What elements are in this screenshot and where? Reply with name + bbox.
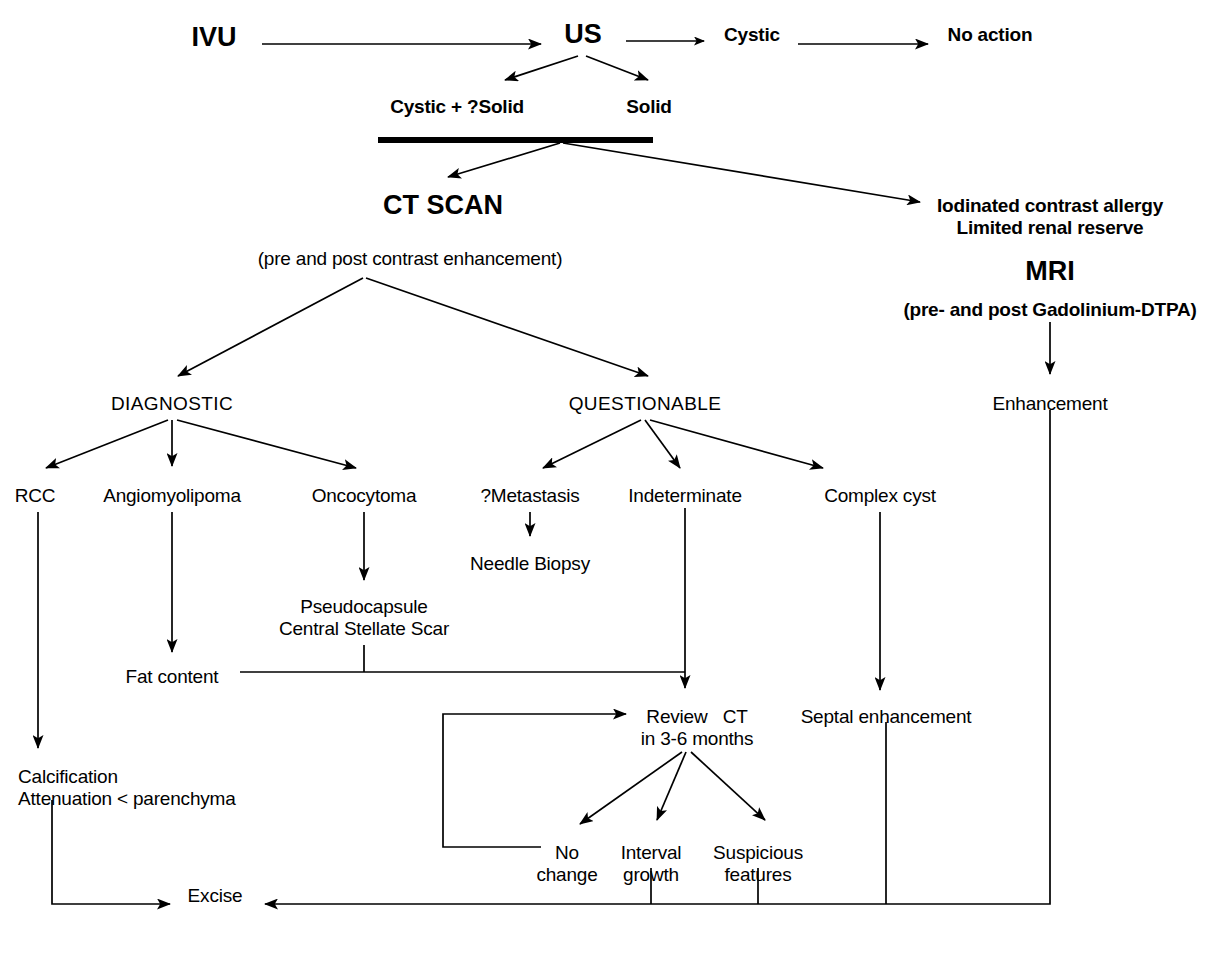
edge-diagnostic-to-rcc bbox=[46, 420, 168, 468]
node-rcc: RCC bbox=[15, 485, 56, 507]
node-review-ct: Review CT in 3-6 months bbox=[641, 706, 754, 751]
node-fat-content: Fat content bbox=[126, 666, 219, 688]
node-ivu: IVU bbox=[191, 22, 236, 54]
edge-ct-to-questionable bbox=[366, 278, 648, 376]
node-indeterminate: Indeterminate bbox=[628, 485, 742, 507]
node-qmetastasis: ?Metastasis bbox=[480, 485, 579, 507]
node-iodinated-contrast-allergy: Iodinated contrast allergy Limited renal… bbox=[937, 195, 1163, 240]
edge-bar-to-iodinated bbox=[563, 143, 920, 202]
node-pseudocapsule: Pseudocapsule Central Stellate Scar bbox=[279, 596, 449, 641]
node-ct-scan-note: (pre and post contrast enhancement) bbox=[258, 248, 563, 270]
node-needle-biopsy: Needle Biopsy bbox=[470, 553, 590, 575]
edge-questionable-to-indet bbox=[645, 420, 680, 468]
flowchart-canvas: IVU US Cystic No action Cystic + ?Solid … bbox=[0, 0, 1225, 960]
node-diagnostic: DIAGNOSTIC bbox=[111, 393, 233, 415]
node-excise: Excise bbox=[188, 885, 243, 907]
edge-questionable-to-qmeta bbox=[543, 420, 641, 468]
flowchart-edges bbox=[0, 0, 1225, 960]
edge-diagnostic-to-oncocytoma bbox=[177, 420, 356, 468]
node-oncocytoma: Oncocytoma bbox=[312, 485, 417, 507]
edge-bar-to-ct-scan bbox=[448, 143, 560, 177]
node-mri-note: (pre- and post Gadolinium-DTPA) bbox=[903, 299, 1196, 321]
edge-no-change-feedback-loop bbox=[443, 714, 626, 847]
node-enhancement: Enhancement bbox=[992, 393, 1107, 415]
node-complex-cyst: Complex cyst bbox=[824, 485, 936, 507]
node-solid: Solid bbox=[626, 96, 671, 118]
edge-us-to-solid bbox=[586, 56, 648, 80]
node-no-action: No action bbox=[948, 24, 1033, 46]
edge-review-to-suspicious bbox=[691, 752, 765, 820]
node-no-change: No change bbox=[536, 842, 597, 887]
edge-calcification-to-excise bbox=[52, 800, 170, 904]
edge-questionable-to-cyst bbox=[650, 420, 823, 468]
node-mri: MRI bbox=[1025, 256, 1075, 288]
edge-review-to-interval bbox=[657, 752, 686, 820]
node-questionable: QUESTIONABLE bbox=[569, 393, 722, 415]
node-cystic-qsolid: Cystic + ?Solid bbox=[390, 96, 524, 118]
node-ct-scan: CT SCAN bbox=[383, 190, 503, 222]
edge-us-to-cystic-qsolid bbox=[505, 56, 578, 80]
node-septal-enhancement: Septal enhancement bbox=[801, 706, 972, 728]
node-interval-growth: Interval growth bbox=[621, 842, 682, 887]
node-calcification: Calcification Attenuation < parenchyma bbox=[18, 766, 236, 811]
edge-review-to-no-change bbox=[580, 752, 682, 824]
node-angiomyolipoma: Angiomyolipoma bbox=[103, 485, 241, 507]
node-us: US bbox=[564, 19, 602, 51]
edge-ct-to-diagnostic bbox=[178, 278, 363, 376]
node-cystic: Cystic bbox=[724, 24, 780, 46]
node-suspicious-features: Suspicious features bbox=[713, 842, 803, 887]
